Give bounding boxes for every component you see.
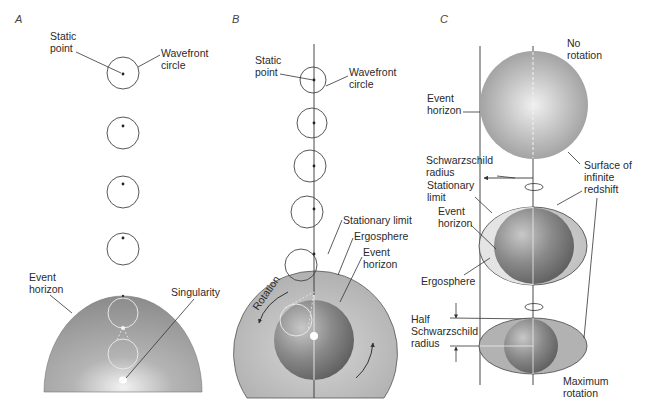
static-point: [122, 125, 125, 128]
static-point: [122, 183, 125, 186]
static-point: [313, 165, 316, 168]
static-point: [313, 79, 316, 82]
event-horizon-sphere-mid: [494, 208, 574, 284]
label-ergosphere: Ergosphere: [421, 275, 475, 287]
static-point: [121, 326, 125, 330]
static-point: [313, 122, 316, 125]
label-ergosphere: Ergosphere: [354, 230, 408, 242]
panel-b-label: B: [232, 13, 239, 25]
leader-line: [138, 55, 160, 67]
leader-line: [338, 238, 353, 275]
black-hole-diagram: A Staticpoint Wavefrontcircle Eventhoriz…: [0, 0, 648, 409]
static-point: [122, 237, 125, 240]
leader-line: [475, 197, 492, 213]
label-static-point: Staticpoint: [255, 54, 281, 78]
label-event-horizon: Eventhorizon: [427, 92, 462, 116]
leader-line: [328, 220, 342, 254]
label-wavefront-circle: Wavefrontcircle: [161, 47, 209, 71]
leader-line: [76, 52, 121, 73]
leader-line: [326, 76, 348, 86]
wavefront-circle: [294, 150, 326, 182]
label-maximum-rotation: Maximumrotation: [563, 375, 609, 399]
panel-b: B Rotation Staticpoint Wavefrontcircle: [232, 13, 412, 398]
label-event-horizon-mid: Eventhorizon: [438, 205, 473, 229]
rotation-icon: [525, 184, 543, 191]
panel-c: C Norotation Eventhorizon Schw: [411, 13, 632, 399]
label-static-point: Staticpoint: [50, 30, 76, 54]
leader-line: [557, 191, 582, 205]
label-surface-infinite-redshift: Surface ofinfiniteredshift: [584, 159, 632, 195]
label-schwarzschild-radius: Schwarzschildradius: [426, 154, 493, 178]
singularity-dot: [310, 332, 318, 340]
label-wavefront-circle: Wavefrontcircle: [349, 66, 397, 90]
wavefront-circle: [107, 117, 139, 149]
label-stationary-limit: Stationary limit: [343, 214, 412, 226]
leader-line: [280, 74, 313, 80]
label-singularity: Singularity: [171, 286, 221, 298]
leader-line: [464, 258, 490, 275]
static-point: [313, 208, 316, 211]
wavefront-circle: [107, 176, 139, 208]
leader-line: [50, 295, 72, 313]
singularity-dot: [119, 377, 127, 384]
static-point: [122, 73, 125, 76]
static-point: [313, 253, 316, 256]
panel-a-label: A: [14, 13, 22, 25]
leader-line: [584, 198, 597, 338]
label-stationary-limit: Stationarylimit: [427, 179, 475, 203]
rotation-icon: [525, 304, 543, 311]
static-point: [122, 295, 124, 297]
wavefront-circle: [291, 196, 323, 228]
panel-a: A Staticpoint Wavefrontcircle Eventhoriz…: [14, 13, 221, 392]
leader-line: [568, 152, 580, 164]
event-horizon-sphere-no-rotation: [480, 51, 588, 159]
label-event-horizon: Eventhorizon: [363, 246, 398, 270]
label-event-horizon: Eventhorizon: [29, 271, 64, 295]
label-no-rotation: Norotation: [567, 37, 602, 61]
panel-c-label: C: [440, 13, 448, 25]
wavefront-circle: [297, 108, 327, 138]
